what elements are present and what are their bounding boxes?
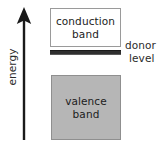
valence-band-label-line2: band [73,108,100,121]
donor-level-label-line1: donor [125,39,163,52]
donor-level-label: donor level [125,39,163,64]
conduction-band-label-line2: band [72,28,99,41]
donor-level-label-line2: level [125,52,163,65]
band-diagram: energy conduction band donor level valen… [0,0,163,153]
energy-axis-label: energy [5,39,19,95]
valence-band-label-line1: valence [65,95,107,108]
conduction-band-box: conduction band [50,8,121,47]
donor-level-bar [50,50,121,55]
valence-band-box: valence band [51,75,121,140]
conduction-band-label-line1: conduction [56,15,115,28]
